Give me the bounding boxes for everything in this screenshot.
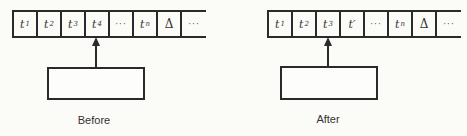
cell-subscript: n (400, 20, 405, 28)
cell-symbol: t (44, 18, 48, 31)
ellipsis-icon: ··· (115, 19, 127, 29)
tape-cell-current: t4 (84, 12, 108, 36)
tape-cell-written: t′ (339, 12, 363, 36)
cell-subscript: 2 (304, 20, 308, 28)
delta-blank-icon: Δ (165, 17, 174, 31)
cell-subscript: 1 (280, 20, 284, 28)
cell-symbol: t (275, 18, 279, 31)
caption-before: Before (44, 114, 144, 126)
cell-symbol: t (92, 18, 96, 31)
cell-symbol: t (395, 18, 399, 31)
tape-cell: t1 (267, 12, 291, 36)
before-panel: t1 t2 t3 t4 ··· tn Δ ··· Before (0, 0, 233, 136)
ellipsis-icon: ··· (443, 19, 455, 29)
arrow-shaft (95, 44, 97, 68)
arrow-shaft (327, 44, 329, 67)
tape-cell: t1 (12, 12, 36, 36)
cell-symbol: t (140, 18, 144, 31)
cell-subscript: 3 (328, 20, 332, 28)
cell-subscript: 4 (97, 20, 101, 28)
cell-symbol: t (323, 18, 327, 31)
tape-cell-ellipsis: ··· (108, 12, 132, 36)
caption-after: After (278, 113, 378, 125)
tape-cell-ellipsis-open: ··· (180, 12, 206, 36)
read-write-head-box (47, 67, 145, 100)
read-write-head-box (280, 66, 378, 100)
tape-cell: t2 (36, 12, 60, 36)
cell-subscript: 1 (25, 20, 29, 28)
cell-symbol: t′ (349, 18, 356, 31)
tape-cell-blank: Δ (156, 12, 180, 36)
tape-cell-ellipsis-open: ··· (435, 12, 461, 36)
tape-after: t1 t2 t3 t′ ··· tn Δ ··· (267, 10, 461, 38)
tape-cell-ellipsis: ··· (363, 12, 387, 36)
cell-subscript: 2 (49, 20, 53, 28)
ellipsis-icon: ··· (188, 19, 200, 29)
tape-before: t1 t2 t3 t4 ··· tn Δ ··· (12, 10, 206, 38)
cell-subscript: 3 (73, 20, 77, 28)
tape-cell: t2 (291, 12, 315, 36)
cell-subscript: n (145, 20, 150, 28)
after-panel: t1 t2 t3 t′ ··· tn Δ ··· After (233, 0, 467, 136)
tape-cell: t3 (60, 12, 84, 36)
ellipsis-icon: ··· (370, 19, 382, 29)
delta-blank-icon: Δ (420, 17, 429, 31)
cell-symbol: t (20, 18, 24, 31)
cell-symbol: t (68, 18, 72, 31)
tape-cell: tn (132, 12, 156, 36)
tape-cell-blank: Δ (411, 12, 435, 36)
cell-symbol: t (299, 18, 303, 31)
tape-cell-current: t3 (315, 12, 339, 36)
tape-cell: tn (387, 12, 411, 36)
